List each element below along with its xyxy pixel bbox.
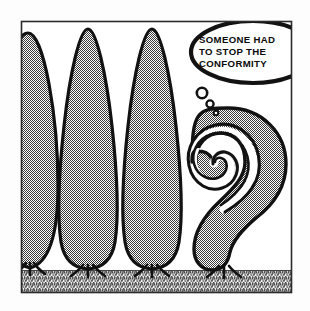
ground-texture [22,270,291,293]
bubble-line-1: SOMEONE HAD [199,34,275,45]
comic-illustration: SOMEONE HAD TO STOP THE CONFORMITY [0,0,310,311]
thought-dot-medium [206,100,213,107]
thought-dot-small [214,111,219,116]
panel-artwork: SOMEONE HAD TO STOP THE CONFORMITY [0,21,310,293]
bubble-line-2: TO STOP THE [199,46,267,57]
bubble-line-3: CONFORMITY [199,58,267,69]
comic-panel: SOMEONE HAD TO STOP THE CONFORMITY [0,0,310,311]
ground [22,270,291,293]
thought-dot-large [197,88,207,98]
